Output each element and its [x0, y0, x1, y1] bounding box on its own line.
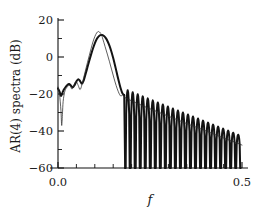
x-tick-label-0: 0.0 — [49, 175, 67, 189]
ar4-spectra-chart: AR(4) spectra (dB) 20 0 −20 −40 −60 0.0 … — [0, 0, 265, 210]
series-connector-1 — [124, 95, 125, 168]
series-path-2 — [58, 31, 125, 125]
x-tick-label-05: 0.5 — [233, 175, 251, 189]
figure-container: AR(4) spectra (dB) 20 0 −20 −40 −60 0.0 … — [0, 0, 265, 210]
spectra-curves — [58, 31, 242, 168]
y-tick-label-0: 0 — [46, 50, 53, 64]
y-tick-label-minus20: −20 — [29, 87, 53, 101]
x-axis-title: f — [147, 192, 155, 207]
series-path-1 — [125, 90, 241, 168]
y-axis-title: AR(4) spectra (dB) — [9, 39, 23, 154]
y-tick-label-minus60: −60 — [29, 161, 53, 175]
y-tick-label-20: 20 — [38, 13, 53, 27]
y-tick-label-minus40: −40 — [29, 124, 53, 138]
